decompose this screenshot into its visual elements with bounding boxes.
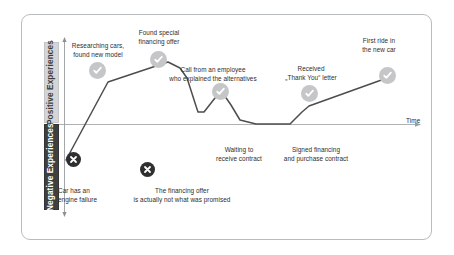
annotation-engine-failure: Car has an engine failure — [58, 186, 114, 204]
annotation-financing-offer-not-promised: The financing offer is actually not what… — [122, 186, 242, 204]
x-axis-label-time: Time — [406, 117, 420, 124]
cross-circle-icon-engine-failure — [66, 152, 81, 167]
y-axis-arrow-bottom — [62, 212, 66, 217]
annotation-first-ride: First ride in the new car — [348, 36, 410, 54]
check-circle-icon-call-from-employee — [212, 83, 229, 100]
annotation-signed-contract: Signed financing and purchase contract — [274, 145, 358, 163]
customer-journey-chart: Positive Experiences Negative Experience… — [0, 0, 454, 255]
check-circle-icon-received-thank-you — [301, 85, 318, 102]
annotation-found-special-financing: Found special financing offer — [124, 28, 194, 46]
check-circle-icon-first-ride — [379, 67, 396, 84]
annotation-call-from-employee: Call from an employee who explained the … — [163, 65, 263, 83]
annotation-received-thank-you: Received „Thank You“ letter — [271, 64, 351, 82]
annotation-waiting-contract: Waiting to receive contract — [208, 145, 270, 163]
check-circle-icon-researching-cars — [89, 62, 106, 79]
cross-circle-icon-financing-offer-not-promised — [140, 162, 155, 177]
